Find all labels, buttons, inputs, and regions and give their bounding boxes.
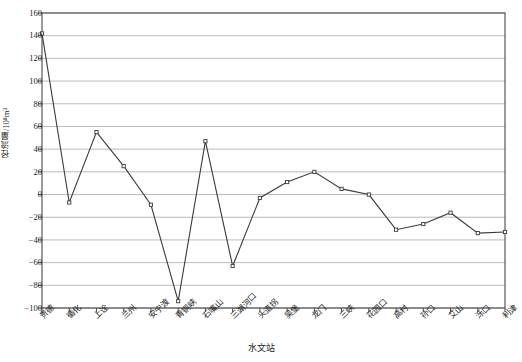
x-tick-label: 泺口 [475, 304, 492, 321]
x-tick-label: 青铜峡 [175, 298, 198, 321]
x-tick-label: 龙门 [311, 304, 328, 321]
x-tick-label: 头道拐 [257, 298, 280, 321]
x-tick-label: 孙口 [420, 304, 437, 321]
x-tick-label: 上诠 [93, 304, 110, 321]
x-axis-tick-labels: 贵德循化上诠兰州安宁渡青铜峡石嘴山三湖河口头道拐吴堡龙门三峡花园口高村孙口艾山泺… [0, 0, 522, 362]
x-tick-label: 安宁渡 [148, 298, 171, 321]
x-tick-label: 石嘴山 [202, 298, 225, 321]
x-tick-label: 兰州 [121, 304, 138, 321]
x-tick-label: 高村 [393, 304, 410, 321]
x-tick-label: 贵德 [39, 304, 56, 321]
x-tick-label: 三湖河口 [230, 292, 258, 320]
x-tick-label: 花园口 [366, 298, 389, 321]
x-tick-label: 吴堡 [284, 304, 301, 321]
x-tick-label: 循化 [66, 304, 83, 321]
x-tick-label: 利津 [502, 304, 519, 321]
runoff-line-chart: 径流量/10⁸m³ 160140120100806040200−20−40−60… [0, 0, 522, 362]
x-axis-title: 水文站 [0, 341, 522, 354]
x-tick-label: 三峡 [339, 304, 356, 321]
x-tick-label: 艾山 [448, 304, 465, 321]
